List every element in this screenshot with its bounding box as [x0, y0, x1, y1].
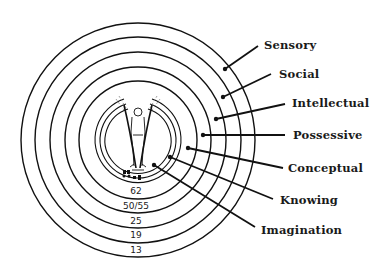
ring-social [35, 37, 241, 243]
age-25: 25 [130, 216, 141, 226]
ring-innermost [105, 109, 171, 173]
age-19: 19 [130, 230, 142, 240]
dot-possessive [201, 133, 205, 137]
age-13: 13 [130, 245, 141, 255]
age-markers: 62 50/55 25 19 13 [123, 186, 149, 255]
label-conceptual: Conceptual [288, 161, 363, 175]
label-social: Social [279, 67, 320, 81]
human-figure-icon [116, 96, 160, 180]
label-sensory: Sensory [264, 38, 316, 52]
leader-sensory [225, 46, 258, 69]
ring-imagination [100, 104, 176, 178]
ring-labels: Sensory Social Intellectual Possessive C… [261, 38, 370, 237]
leaders [152, 46, 285, 227]
age-50-55: 50/55 [123, 201, 149, 211]
concentric-levels-diagram: Sensory Social Intellectual Possessive C… [0, 0, 375, 274]
label-imagination: Imagination [261, 223, 343, 237]
dot-knowing [168, 155, 172, 159]
leader-imagination [154, 165, 255, 227]
dot-imagination [152, 163, 156, 167]
leader-conceptual [188, 148, 283, 168]
dot-conceptual [186, 146, 190, 150]
label-intellectual: Intellectual [292, 96, 370, 110]
dot-sensory [223, 67, 227, 71]
label-knowing: Knowing [280, 193, 338, 207]
label-possessive: Possessive [293, 128, 363, 142]
leader-social [223, 74, 271, 97]
dot-social [221, 95, 225, 99]
dot-intellectual [214, 117, 218, 121]
age-62: 62 [130, 186, 141, 196]
